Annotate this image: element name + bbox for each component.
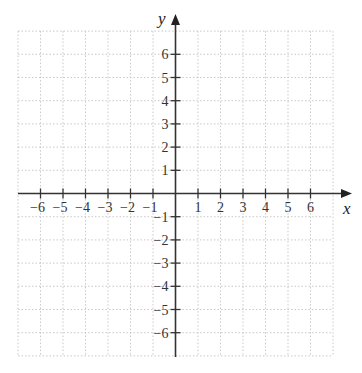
y-tick-label: −2 [154,233,169,248]
y-tick-label: 4 [162,94,169,109]
x-tick-label: 1 [195,200,202,215]
y-axis-arrow-icon [171,14,180,25]
x-tick-label: −4 [75,200,90,215]
x-tick-label: −6 [30,200,45,215]
y-axis-label: y [156,9,166,28]
y-tick-label: −1 [154,210,169,225]
axes [18,14,352,357]
x-tick-label: 3 [240,200,247,215]
y-tick-label: −6 [154,326,169,341]
x-axis-arrow-icon [341,189,352,198]
x-tick-label: 2 [217,200,224,215]
x-tick-label: 4 [262,200,269,215]
x-tick-label: 6 [307,200,314,215]
y-tick-label: −5 [154,303,169,318]
x-tick-label: −5 [53,200,68,215]
y-tick-label: −3 [154,256,169,271]
x-tick-label: 5 [285,200,292,215]
x-tick-label: −3 [98,200,113,215]
y-tick-label: 3 [162,117,169,132]
y-tick-label: 5 [162,71,169,86]
y-tick-label: 6 [162,47,169,62]
coordinate-plane: −6−5−4−3−2−1123456−6−5−4−3−2−1123456 x y [0,0,362,373]
y-tick-label: −4 [154,279,169,294]
y-tick-label: 2 [162,140,169,155]
x-tick-label: −2 [120,200,135,215]
y-tick-label: 1 [162,163,169,178]
x-axis-label: x [342,199,351,218]
